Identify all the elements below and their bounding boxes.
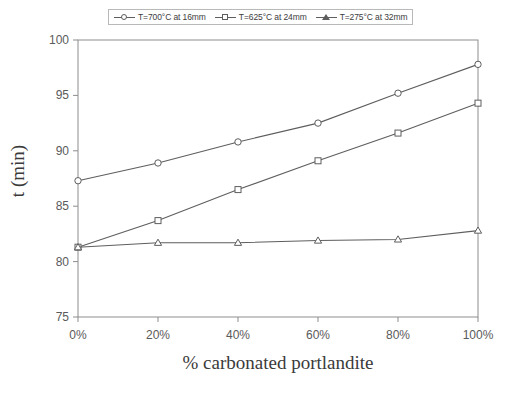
data-point-marker [315, 158, 321, 164]
data-point-marker [315, 120, 321, 126]
x-tick-label: 80% [386, 328, 410, 342]
x-tick-label: 20% [146, 328, 170, 342]
data-point-marker [395, 90, 401, 96]
data-point-marker [235, 139, 241, 145]
x-tick-label: 100% [463, 328, 494, 342]
data-point-marker [155, 160, 161, 166]
series-3 [74, 227, 481, 250]
x-axis-tick-labels: 0%20%40%60%80%100% [69, 328, 493, 342]
y-tick-label: 85 [56, 199, 70, 213]
plot-area: 7580859095100 0%20%40%60%80%100% [0, 0, 518, 401]
series-1 [75, 61, 481, 184]
series-2 [75, 100, 481, 250]
data-series-layer [74, 61, 481, 250]
data-point-marker [395, 130, 401, 136]
data-point-marker [474, 227, 481, 233]
x-tick-label: 60% [306, 328, 330, 342]
y-tick-label: 80 [56, 255, 70, 269]
x-tick-label: 0% [69, 328, 87, 342]
data-point-marker [235, 187, 241, 193]
x-axis-ticks [78, 317, 478, 322]
x-tick-label: 40% [226, 328, 250, 342]
data-point-marker [75, 178, 81, 184]
data-point-marker [475, 100, 481, 106]
y-tick-label: 100 [49, 33, 69, 47]
y-axis-title: t (min) [7, 121, 29, 221]
axis-frame [78, 40, 478, 317]
y-axis-tick-labels: 7580859095100 [49, 33, 69, 324]
chart-container: T=700°C at 16mm T=625°C at 24mm T=275°C … [0, 0, 518, 401]
data-point-marker [155, 218, 161, 224]
data-point-marker [475, 61, 481, 67]
y-tick-label: 75 [56, 310, 70, 324]
x-axis-title: % carbonated portlandite [78, 352, 478, 374]
y-tick-label: 95 [56, 88, 70, 102]
y-tick-label: 90 [56, 144, 70, 158]
